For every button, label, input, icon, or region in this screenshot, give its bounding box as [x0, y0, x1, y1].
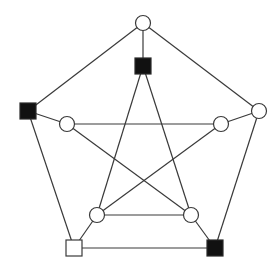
edge-inner-left-inner-bottom-right: [67, 124, 191, 215]
edge-outer-top-outer-right: [143, 23, 259, 111]
node-inner-left: [60, 117, 75, 132]
node-outer-top: [136, 16, 151, 31]
node-outer-bottom-right: [207, 240, 223, 256]
node-outer-left: [20, 103, 36, 119]
edge-outer-left-outer-top: [28, 23, 143, 111]
graph-diagram: [0, 0, 280, 274]
node-inner-top: [135, 58, 151, 74]
edge-inner-right-inner-bottom-left: [97, 124, 221, 215]
node-outer-right: [252, 104, 267, 119]
edge-inner-top-inner-bottom-left: [97, 66, 143, 215]
node-inner-bottom-right: [184, 208, 199, 223]
edges-group: [28, 23, 259, 248]
node-inner-right: [214, 117, 229, 132]
node-outer-bottom-left: [66, 240, 82, 256]
edge-inner-top-inner-bottom-right: [143, 66, 191, 215]
node-inner-bottom-left: [90, 208, 105, 223]
